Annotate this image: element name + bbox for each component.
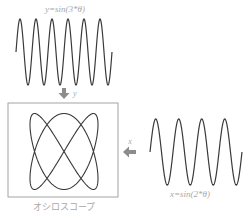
diagram-canvas: y=sin(3*θ) y オシロスコープ x x=sin(2*θ) (0, 0, 250, 221)
vertical-signal-wave (16, 19, 112, 85)
horizontal-signal-label: x=sin(2*θ) (169, 189, 210, 199)
y-axis-label: y (72, 89, 77, 98)
horizontal-signal-wave (150, 119, 242, 185)
down-arrow-icon (59, 88, 70, 99)
x-axis-label: x (127, 137, 132, 146)
left-arrow-icon (123, 147, 136, 158)
vertical-signal-label: y=sin(3*θ) (44, 4, 85, 14)
oscilloscope-label: オシロスコープ (33, 202, 95, 212)
